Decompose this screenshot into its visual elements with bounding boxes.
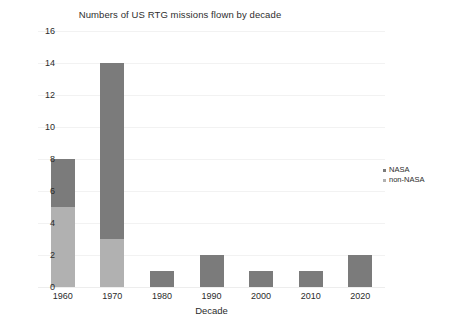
y-tick-label: 12 <box>35 90 55 100</box>
legend-label: non-NASA <box>389 175 424 185</box>
bar-2020[interactable] <box>348 255 372 287</box>
y-tick-label: 14 <box>35 58 55 68</box>
x-tick-label: 2020 <box>330 291 390 301</box>
bar-segment-nasa <box>200 255 224 287</box>
y-tick-label: 6 <box>35 186 55 196</box>
chart-legend: NASAnon-NASA <box>383 165 424 185</box>
chart-container: Numbers of US RTG missions flown by deca… <box>0 0 451 328</box>
legend-item-nasa[interactable]: NASA <box>383 165 424 175</box>
bar-segment-nasa <box>299 271 323 287</box>
y-tick-label: 16 <box>35 26 55 36</box>
bar-segment-nasa <box>249 271 273 287</box>
plot-area <box>38 31 385 287</box>
bar-series-layer <box>38 31 385 287</box>
chart-title: Numbers of US RTG missions flown by deca… <box>0 9 360 20</box>
bar-1970[interactable] <box>100 63 124 287</box>
bar-segment-nasa <box>348 255 372 287</box>
legend-item-non-nasa[interactable]: non-NASA <box>383 175 424 185</box>
bar-2000[interactable] <box>249 271 273 287</box>
y-tick-label: 2 <box>35 250 55 260</box>
y-tick-label: 4 <box>35 218 55 228</box>
bar-segment-non-nasa <box>100 239 124 287</box>
y-tick-label: 10 <box>35 122 55 132</box>
y-tick-label: 8 <box>35 154 55 164</box>
gridline <box>38 287 385 288</box>
legend-swatch-icon <box>383 169 386 172</box>
bar-1980[interactable] <box>150 271 174 287</box>
x-axis-title: Decade <box>38 305 385 316</box>
bar-2010[interactable] <box>299 271 323 287</box>
bar-segment-nasa <box>51 159 75 207</box>
legend-swatch-icon <box>383 179 386 182</box>
bar-segment-nasa <box>100 63 124 239</box>
bar-1990[interactable] <box>200 255 224 287</box>
bar-segment-nasa <box>150 271 174 287</box>
legend-label: NASA <box>389 165 409 175</box>
